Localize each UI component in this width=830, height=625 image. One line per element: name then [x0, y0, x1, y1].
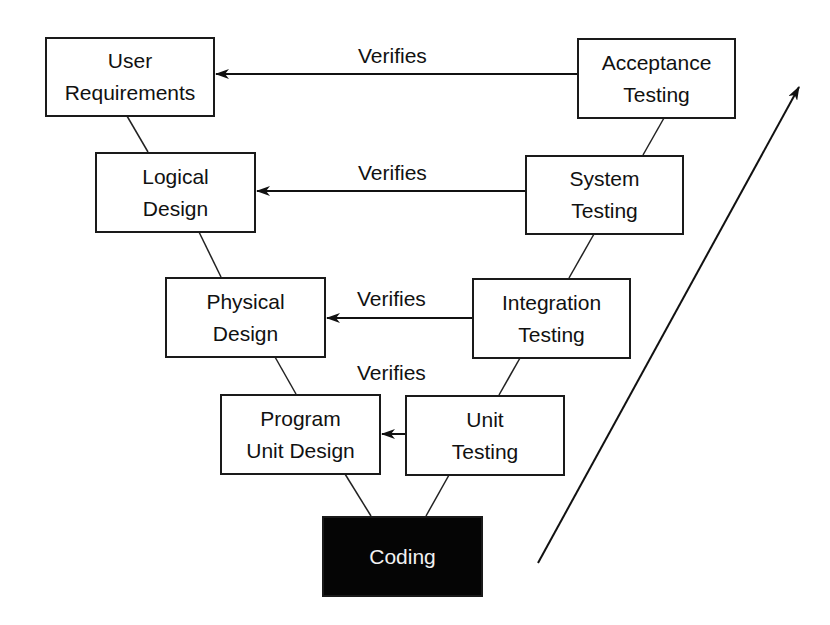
box-unit-testing: Unit Testing: [405, 395, 565, 476]
box-program-unit-design: Program Unit Design: [220, 394, 381, 475]
box-label-line2: Testing: [571, 195, 638, 227]
box-integration-testing: Integration Testing: [472, 278, 631, 359]
box-label-line2: Testing: [623, 79, 690, 111]
box-label-line1: Acceptance: [602, 47, 712, 79]
box-label-line1: User: [108, 45, 152, 77]
verifies-label-system: Verifies: [358, 161, 427, 185]
connector-logical-physical: [199, 232, 221, 277]
box-coding: Coding: [322, 516, 483, 597]
box-label-line1: System: [569, 163, 639, 195]
box-user-requirements: User Requirements: [45, 37, 215, 117]
connector-system-integration: [569, 234, 594, 278]
box-label: Coding: [369, 541, 436, 573]
verifies-label-acceptance: Verifies: [358, 44, 427, 68]
box-label-line2: Testing: [518, 319, 585, 351]
connector-userreq-logical: [127, 116, 148, 152]
connector-acceptance-system: [643, 118, 664, 155]
box-acceptance-testing: Acceptance Testing: [577, 38, 736, 119]
box-label-line1: Logical: [142, 161, 209, 193]
box-logical-design: Logical Design: [95, 152, 256, 233]
box-label-line1: Physical: [206, 286, 284, 318]
box-label-line1: Integration: [502, 287, 601, 319]
box-label-line1: Unit: [466, 404, 503, 436]
connector-programunit-coding: [345, 474, 371, 516]
box-system-testing: System Testing: [525, 155, 684, 235]
box-label-line2: Requirements: [65, 77, 196, 109]
box-physical-design: Physical Design: [165, 277, 326, 358]
verifies-label-unit: Verifies: [357, 361, 426, 385]
box-label-line2: Unit Design: [246, 435, 355, 467]
box-label-line1: Program: [260, 403, 341, 435]
connector-physical-programunit: [275, 357, 296, 394]
box-label-line2: Testing: [452, 436, 519, 468]
connector-integration-unit: [499, 358, 520, 395]
connector-unit-coding: [426, 475, 449, 516]
box-label-line2: Design: [143, 193, 208, 225]
box-label-line2: Design: [213, 318, 278, 350]
verifies-label-integration: Verifies: [357, 287, 426, 311]
